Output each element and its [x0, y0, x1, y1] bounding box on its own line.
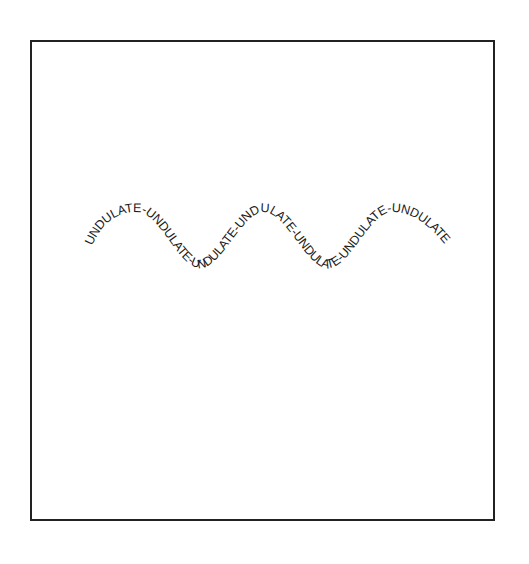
undulating-text: UNDULATE-UNDULATE-UNDULATE-UNDULATE-UNDU…: [82, 201, 453, 272]
undulating-text-path: UNDULATE-UNDULATE-UNDULATE-UNDULATE-UNDU…: [82, 201, 453, 272]
wavy-text-graphic: UNDULATE-UNDULATE-UNDULATE-UNDULATE-UNDU…: [0, 0, 529, 564]
